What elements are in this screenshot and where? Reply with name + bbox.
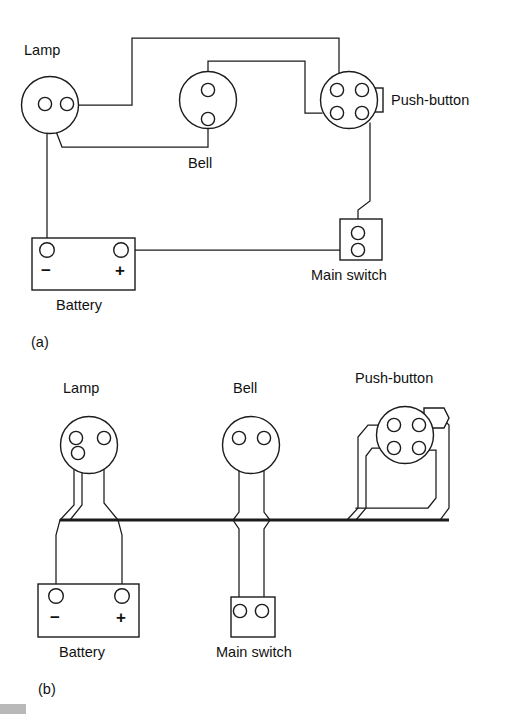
bell-terminal-bottom-a[interactable] xyxy=(201,112,214,125)
lamp-terminal-left-b[interactable] xyxy=(69,431,82,444)
label-mainswitch-b: Main switch xyxy=(216,644,292,660)
battery-minus-sign-b: − xyxy=(50,608,60,627)
pushbutton-terminal-top-left-a[interactable] xyxy=(330,83,343,96)
component-lamp-b[interactable] xyxy=(61,417,118,474)
battery-terminal-negative-a[interactable] xyxy=(40,243,55,258)
bell-body-b xyxy=(223,417,280,474)
label-pushbutton-a: Push-button xyxy=(391,92,469,108)
label-bell-a: Bell xyxy=(188,155,212,171)
battery-plus-sign-a: + xyxy=(115,261,125,280)
component-pushbutton-b[interactable] xyxy=(377,407,450,464)
caption-b: (b) xyxy=(38,681,56,697)
pushbutton-terminal-bottom-right-b[interactable] xyxy=(412,441,425,454)
wire-a-pushbutton-to-mainswitch xyxy=(358,123,370,232)
battery-terminal-positive-b[interactable] xyxy=(115,589,130,604)
bell-terminal-left-b[interactable] xyxy=(232,431,245,444)
component-battery-b[interactable]: − + xyxy=(38,584,139,637)
wire-b-pushbutton-bottomleft-to-trunk xyxy=(356,448,393,520)
component-bell-b[interactable] xyxy=(223,417,280,474)
component-battery-a[interactable]: − + xyxy=(32,238,135,290)
component-mainswitch-a[interactable] xyxy=(340,219,382,260)
label-lamp-b: Lamp xyxy=(63,380,99,396)
pushbutton-body-a xyxy=(321,72,378,129)
battery-terminal-positive-a[interactable] xyxy=(114,243,129,258)
wiring-diagram-svg: Lamp Bell Push-button xyxy=(0,0,517,716)
label-lamp-a: Lamp xyxy=(24,42,60,58)
label-mainswitch-a: Main switch xyxy=(311,267,387,283)
page-corner-mark xyxy=(0,704,26,714)
label-pushbutton-b: Push-button xyxy=(355,370,433,386)
pushbutton-terminal-top-right-b[interactable] xyxy=(412,418,425,431)
panel-a: Lamp Bell Push-button xyxy=(22,38,470,350)
lamp-terminal-left-a[interactable] xyxy=(38,97,51,110)
mainswitch-terminal-right-b[interactable] xyxy=(255,604,268,617)
battery-terminal-negative-b[interactable] xyxy=(49,589,64,604)
pushbutton-terminal-top-right-a[interactable] xyxy=(355,83,368,96)
pushbutton-body-b xyxy=(377,407,434,464)
label-bell-b: Bell xyxy=(233,380,257,396)
lamp-terminal-right-a[interactable] xyxy=(60,97,73,110)
caption-a: (a) xyxy=(31,334,49,350)
pushbutton-terminal-bottom-right-a[interactable] xyxy=(355,106,368,119)
mainswitch-terminal-bottom-a[interactable] xyxy=(351,243,364,256)
battery-minus-sign-a: − xyxy=(41,261,51,280)
lamp-body-b xyxy=(61,417,118,474)
mainswitch-terminal-top-a[interactable] xyxy=(351,226,364,239)
label-battery-a: Battery xyxy=(56,297,103,313)
bell-terminal-top-a[interactable] xyxy=(201,83,214,96)
panel-b: Lamp Bell Push-button xyxy=(38,370,449,697)
bell-terminal-right-b[interactable] xyxy=(257,431,270,444)
component-bell-a[interactable] xyxy=(180,72,237,129)
mainswitch-terminal-left-b[interactable] xyxy=(233,604,246,617)
pushbutton-terminal-bottom-left-a[interactable] xyxy=(330,106,343,119)
component-lamp-a[interactable] xyxy=(22,77,79,134)
pushbutton-terminal-top-left-b[interactable] xyxy=(387,418,400,431)
component-pushbutton-a[interactable] xyxy=(321,72,384,129)
lamp-terminal-right-b[interactable] xyxy=(97,431,110,444)
label-battery-b: Battery xyxy=(59,644,106,660)
pushbutton-terminal-bottom-left-b[interactable] xyxy=(387,441,400,454)
lamp-terminal-left-lower-b[interactable] xyxy=(71,446,84,459)
figure-page: Lamp Bell Push-button xyxy=(0,0,517,716)
battery-plus-sign-b: + xyxy=(116,608,126,627)
component-mainswitch-b[interactable] xyxy=(231,597,275,637)
